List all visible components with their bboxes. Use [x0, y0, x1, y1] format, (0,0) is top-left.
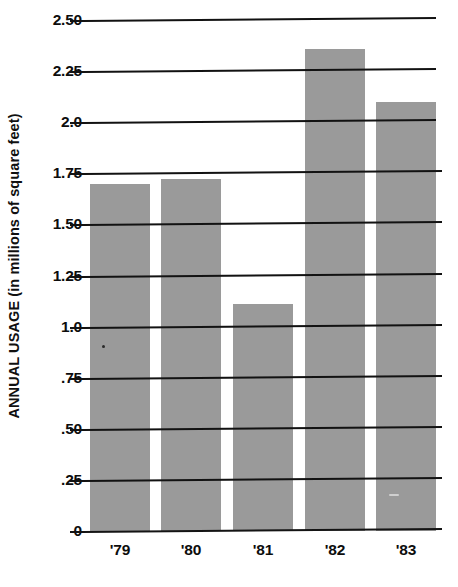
y-tick-stub [70, 327, 85, 329]
scan-scratch-artifact [389, 494, 399, 496]
y-tick-stub [70, 122, 85, 124]
y-tick-stub [70, 20, 85, 22]
bar-chart: ANNUAL USAGE (in millions of square feet… [0, 0, 458, 587]
x-axis-tick-labels: '79'80'81'82'83 [84, 541, 442, 571]
scan-speck-artifact [102, 345, 105, 348]
y-tick-stub [70, 480, 85, 482]
x-tick-label: '82 [325, 541, 345, 559]
y-tick-stub [70, 531, 85, 533]
tick-stubs-layer [84, 14, 442, 538]
x-tick-label: '80 [181, 541, 201, 559]
x-tick-label: '83 [396, 541, 416, 559]
y-tick-stub [70, 224, 85, 226]
y-tick-stub [70, 378, 85, 380]
y-axis-tick-labels: 2.502.252.01.751.501.251.0.75.50.250 [22, 0, 82, 587]
y-tick-stub [70, 429, 85, 431]
y-axis-title-text: ANNUAL USAGE (in millions of square feet… [6, 113, 22, 418]
plot-area [84, 14, 442, 538]
x-tick-label: '79 [110, 541, 130, 559]
y-tick-stub [70, 276, 85, 278]
y-tick-stub [70, 71, 85, 73]
x-tick-label: '81 [253, 541, 273, 559]
y-tick-stub [70, 173, 85, 175]
